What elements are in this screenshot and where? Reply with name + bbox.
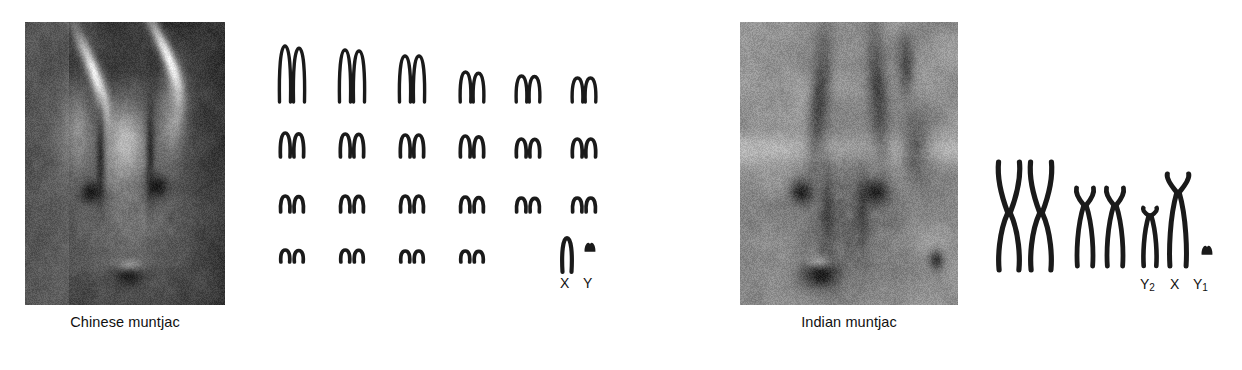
chrom-label-x: X (560, 275, 569, 291)
chrom-label-x: X (1170, 276, 1179, 292)
photo-indian-muntjac (740, 22, 958, 305)
photo-chinese-muntjac (25, 22, 225, 305)
muntjac-karyotype-figure: Chinese muntjac X Y Indian muntjac Y2 X … (0, 0, 1242, 370)
karyotype-chinese-svg (270, 40, 630, 330)
caption-indian-muntjac: Indian muntjac (740, 314, 958, 330)
karyotype-chinese-muntjac: X Y (270, 40, 630, 330)
panel-chinese-muntjac: Chinese muntjac X Y (0, 0, 640, 370)
chrom-label-y2-sub: 2 (1149, 282, 1155, 293)
caption-chinese-muntjac: Chinese muntjac (25, 314, 225, 330)
chrom-label-y1: Y1 (1193, 276, 1208, 293)
chrom-label-y2-letter: Y (1140, 276, 1149, 292)
chrom-label-x-letter: X (1170, 276, 1179, 292)
chrom-label-y2: Y2 (1140, 276, 1155, 293)
karyotype-indian-muntjac: Y2 X Y1 (985, 150, 1235, 300)
chrom-label-y: Y (583, 275, 592, 291)
chrom-label-y1-letter: Y (1193, 276, 1202, 292)
panel-indian-muntjac: Indian muntjac Y2 X Y1 (640, 0, 1242, 370)
chrom-label-y1-sub: 1 (1202, 282, 1208, 293)
